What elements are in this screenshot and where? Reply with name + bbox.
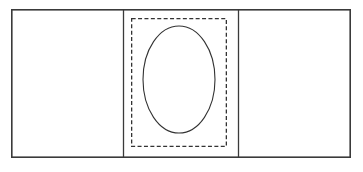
figure-canvas: Three-panel line drawing with dashed ins… (0, 0, 363, 172)
line-drawing-svg (0, 0, 363, 172)
dashed-inset-rectangle (132, 19, 227, 147)
outer-rectangle (12, 10, 350, 157)
center-ellipse (143, 26, 215, 133)
